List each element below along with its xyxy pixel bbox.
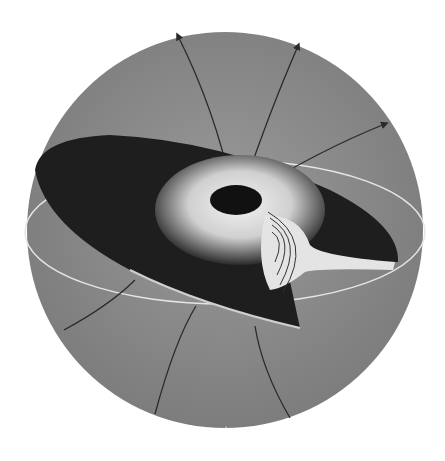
top-notch bbox=[220, 25, 224, 30]
central-hole bbox=[210, 185, 262, 215]
diagram-canvas bbox=[0, 0, 445, 461]
